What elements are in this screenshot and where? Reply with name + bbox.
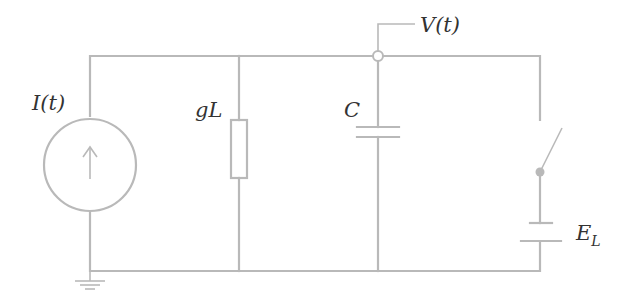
battery-label-main: E xyxy=(575,221,591,245)
node-circle xyxy=(373,51,383,61)
ground-icon xyxy=(75,271,105,289)
arrow-up-icon xyxy=(83,147,97,179)
resistor xyxy=(231,56,247,271)
switch xyxy=(536,128,563,223)
bottom-wire xyxy=(90,213,540,271)
top-wire-right xyxy=(383,56,540,120)
voltage-probe-lead xyxy=(378,24,415,51)
circuit-diagram: I(t) gL C V(t) EL xyxy=(0,0,625,305)
switch-lever xyxy=(540,128,562,172)
battery xyxy=(521,223,561,241)
conductance-label: gL xyxy=(195,98,222,122)
resistor-body xyxy=(231,120,247,178)
current-source xyxy=(44,119,136,211)
top-wire xyxy=(90,56,373,116)
capacitor-label: C xyxy=(344,98,360,122)
battery-label-subscript: L xyxy=(590,233,600,249)
voltage-label: V(t) xyxy=(420,13,460,37)
capacitor xyxy=(357,61,399,271)
battery-label: EL xyxy=(575,221,601,249)
current-source-label: I(t) xyxy=(31,91,65,115)
